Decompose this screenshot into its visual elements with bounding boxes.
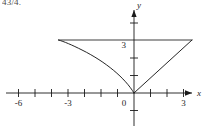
x-axis-arrowhead <box>185 90 192 95</box>
x-axis-group <box>6 89 192 97</box>
coordinate-plot: -6 -3 0 3 3 x y <box>0 0 209 134</box>
y-axis-label: y <box>136 0 141 10</box>
x-tick-label-pos3: 3 <box>181 98 186 108</box>
x-tick-label-neg3: -3 <box>64 98 72 108</box>
figure-container: 43/4. <box>0 0 209 134</box>
y-axis-group <box>130 10 138 126</box>
diagonal-line <box>134 40 192 93</box>
x-tick-label-zero: 0 <box>122 98 127 108</box>
x-axis-label: x <box>196 88 201 98</box>
y-axis-arrowhead <box>131 10 136 17</box>
x-tick-label-neg6: -6 <box>15 98 23 108</box>
y-tick-label-3: 3 <box>122 40 127 50</box>
